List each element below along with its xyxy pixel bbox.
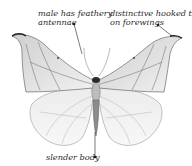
- annotation-line: on forewings: [110, 18, 192, 27]
- moth-thorax: [92, 83, 100, 101]
- moth-abdomen: [93, 100, 99, 136]
- left-hindwing: [30, 88, 93, 146]
- left-antenna: [84, 48, 93, 76]
- moth-figure: male has feathery antennae distinctive h…: [0, 0, 192, 166]
- right-antenna: [99, 48, 110, 76]
- leader-line-antennae: [74, 24, 82, 54]
- annotation-body: slender body: [46, 153, 100, 162]
- annotation-line: slender body: [46, 153, 100, 162]
- left-forewing: [12, 34, 93, 92]
- annotation-hooked-tip: distinctive hooked tip on forewings: [110, 9, 192, 27]
- right-forewing: [99, 36, 182, 92]
- left-wing-spot: [57, 57, 59, 59]
- right-wing-spot: [133, 57, 135, 59]
- annotation-line: antennae: [38, 18, 112, 27]
- right-hindwing: [98, 88, 162, 146]
- annotation-antennae: male has feathery antennae: [38, 9, 112, 27]
- moth-head: [92, 77, 100, 83]
